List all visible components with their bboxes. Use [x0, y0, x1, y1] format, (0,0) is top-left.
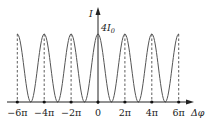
y-axis-arrow-icon — [96, 7, 101, 15]
tick-label: −4π — [34, 107, 54, 118]
x-axis-label: Δφ — [190, 107, 205, 118]
tick-dot — [16, 100, 19, 103]
tick-label: 6π — [173, 107, 185, 118]
tick-dot — [177, 100, 180, 103]
tick-label: 0 — [95, 107, 101, 118]
tick-label: 4π — [146, 107, 158, 118]
x-axis-arrow-icon — [186, 100, 194, 105]
tick-dot — [123, 100, 126, 103]
tick-label: −2π — [61, 107, 81, 118]
tick-label: −6π — [7, 107, 27, 118]
interference-diagram: −6π−4π−2π02π4π6π I 4I0 Δφ — [0, 0, 211, 125]
tick-dot — [43, 100, 46, 103]
y-axis-label: I — [88, 8, 93, 19]
tick-dot — [70, 100, 73, 103]
peak-label: 4I0 — [100, 22, 115, 35]
tick-dot — [96, 100, 99, 103]
tick-label: 2π — [119, 107, 131, 118]
tick-labels: −6π−4π−2π02π4π6π — [7, 107, 185, 118]
tick-dot — [150, 100, 153, 103]
